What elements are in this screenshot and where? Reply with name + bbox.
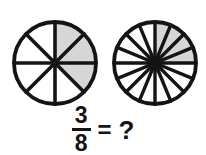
question-mark: ? xyxy=(119,117,135,143)
fraction-numerator: 3 xyxy=(75,104,88,127)
equals-sign: = xyxy=(98,118,112,142)
right-circle xyxy=(114,22,196,104)
fraction-three-eighths: 3 8 xyxy=(72,104,91,155)
fraction-equation: 3 8 = ? xyxy=(72,104,135,155)
fraction-denominator: 8 xyxy=(75,132,88,155)
equation-area: 3 8 = ? xyxy=(0,104,206,155)
circles-group xyxy=(14,22,196,104)
left-circle xyxy=(14,22,96,104)
